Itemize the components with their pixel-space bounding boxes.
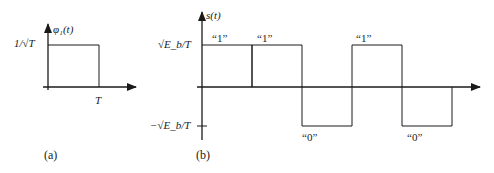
panel-a-x-tick-label: T (95, 95, 101, 106)
panel-b-y-axis-label: s(t) (206, 10, 221, 21)
diagram-canvas (0, 0, 494, 173)
panel-a-pulse (48, 45, 99, 87)
panel-b-waveform (202, 45, 452, 126)
panel-b-pos-level-label: √E_b/T (158, 39, 191, 50)
bit-label-5: “0” (407, 132, 422, 143)
panel-b-plot (197, 12, 480, 140)
panel-a-y-axis-label: φ₁(t) (53, 24, 73, 35)
bit-label-2: “1” (257, 33, 272, 44)
bit-label-1: “1” (212, 33, 227, 44)
bit-label-3: “0” (302, 132, 317, 143)
panel-a-caption: (a) (44, 149, 57, 161)
panel-b-caption: (b) (196, 149, 210, 161)
panel-a-level-label: 1/√T (14, 38, 35, 49)
bit-label-4: “1” (356, 33, 371, 44)
panel-b-neg-level-label: −√E_b/T (150, 120, 190, 131)
